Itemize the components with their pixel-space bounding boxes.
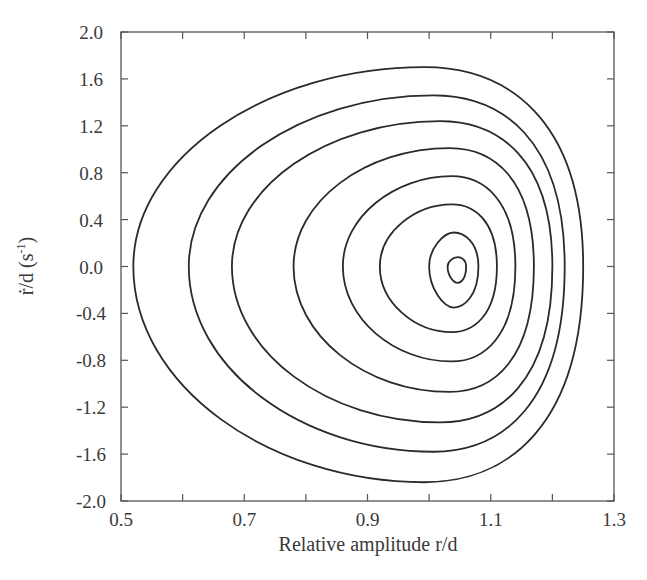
x-axis-title: Relative amplitude r/d (279, 533, 458, 556)
y-tick-label: 0.0 (79, 257, 103, 278)
x-tick-label: 0.7 (232, 509, 256, 530)
y-axis-title: ṙ/d (s-1) (14, 237, 38, 295)
y-tick-label: 1.6 (79, 69, 103, 90)
y-tick-label: -0.8 (76, 350, 106, 371)
y-tick-label: -1.6 (76, 444, 106, 465)
y-tick-label: 0.4 (79, 210, 103, 231)
x-axis-ticks: 0.50.70.91.11.3 (109, 32, 626, 530)
x-tick-label: 1.1 (479, 509, 503, 530)
phase-portrait-chart: 0.50.70.91.11.3 2.01.61.20.80.40.0-0.4-0… (0, 0, 647, 580)
y-tick-label: -1.2 (76, 397, 106, 418)
orbit-curve (429, 232, 478, 307)
y-tick-label: 1.2 (79, 116, 103, 137)
orbit-curves (133, 67, 583, 482)
orbit-curve (448, 257, 466, 283)
x-tick-label: 0.9 (356, 509, 380, 530)
orbit-curve (380, 204, 497, 332)
y-tick-label: 2.0 (79, 22, 103, 43)
x-tick-label: 1.3 (602, 509, 626, 530)
y-tick-label: 0.8 (79, 163, 103, 184)
orbit-curve (232, 121, 552, 422)
y-tick-label: -2.0 (76, 491, 106, 512)
x-tick-label: 0.5 (109, 509, 133, 530)
y-tick-label: -0.4 (76, 303, 107, 324)
